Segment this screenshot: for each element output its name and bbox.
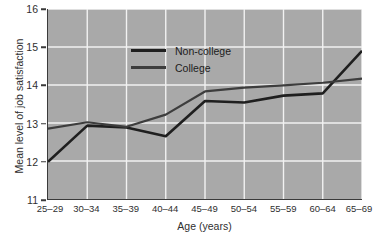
legend-label-college: College xyxy=(175,62,211,74)
y-axis-title: Mean level of job satisfaction xyxy=(13,16,25,196)
chart-legend: Non-college College xyxy=(131,42,231,76)
legend-label-non-college: Non-college xyxy=(175,45,231,57)
y-tick-label: 15 xyxy=(26,42,38,53)
legend-swatch-college xyxy=(131,66,166,69)
y-tick-mark xyxy=(41,161,46,163)
x-tick-label: 40–44 xyxy=(152,203,178,215)
legend-swatch-non-college xyxy=(131,49,166,53)
x-tick-label: 35–39 xyxy=(113,203,139,215)
y-tick-label: 14 xyxy=(26,80,38,91)
x-tick-label: 25–29 xyxy=(37,203,63,215)
plot-area: Non-college College xyxy=(47,9,362,200)
chart-figure: 111213141516 Mean level of job satisfact… xyxy=(0,0,373,238)
y-tick-label: 16 xyxy=(26,4,38,15)
legend-item-non-college: Non-college xyxy=(131,42,231,59)
x-tick-label: 55–59 xyxy=(270,203,296,215)
x-tick-label: 30–34 xyxy=(73,203,99,215)
x-tick-label: 60–64 xyxy=(309,203,335,215)
y-tick-mark xyxy=(41,123,46,125)
x-axis-ticks: 25–2930–3435–3940–4445–4950–5455–5960–64… xyxy=(47,203,362,219)
y-tick-mark xyxy=(41,8,46,10)
x-axis-title: Age (years) xyxy=(47,220,362,232)
x-tick-label: 50–54 xyxy=(231,203,257,215)
y-tick-label: 13 xyxy=(26,118,38,129)
y-tick-mark xyxy=(41,85,46,87)
y-tick-label: 12 xyxy=(26,157,38,168)
y-tick-mark xyxy=(41,199,46,201)
y-tick-mark xyxy=(41,46,46,48)
data-series-lines xyxy=(48,9,362,199)
x-tick-label: 45–49 xyxy=(191,203,217,215)
x-tick-label: 65–69 xyxy=(346,203,372,215)
legend-item-college: College xyxy=(131,59,231,76)
